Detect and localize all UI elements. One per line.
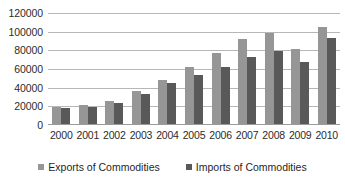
- bar-exports-2000[interactable]: [52, 107, 61, 125]
- x-axis-tick-label: 2000: [48, 128, 75, 146]
- axis-baseline: [48, 124, 340, 125]
- y-axis-tick-label: 120000: [9, 8, 43, 18]
- bar-group: [313, 13, 340, 125]
- y-axis-tick-label: 80000: [14, 45, 43, 55]
- bar-group: [101, 13, 128, 125]
- bar-group: [48, 13, 75, 125]
- bar-imports-2005[interactable]: [194, 75, 203, 125]
- plot-area: [48, 13, 340, 125]
- legend-label: Exports of Commodities: [48, 162, 159, 173]
- bar-exports-2002[interactable]: [105, 101, 114, 125]
- bar-group: [234, 13, 261, 125]
- x-axis-tick-label: 2010: [313, 128, 340, 146]
- bar-groups: [48, 13, 340, 125]
- bar-imports-2004[interactable]: [167, 83, 176, 125]
- bar-imports-2001[interactable]: [88, 107, 97, 125]
- legend-swatch-icon: [186, 164, 192, 170]
- bar-group: [181, 13, 208, 125]
- bar-exports-2010[interactable]: [318, 27, 327, 125]
- chart-legend: Exports of CommoditiesImports of Commodi…: [0, 157, 345, 177]
- x-axis-tick-label: 2009: [287, 128, 314, 146]
- bar-exports-2007[interactable]: [238, 39, 247, 125]
- y-axis: 120000100000800006000040000200000: [0, 0, 46, 132]
- bar-imports-2002[interactable]: [114, 103, 123, 125]
- bar-group: [207, 13, 234, 125]
- legend-item-imports[interactable]: Imports of Commodities: [186, 162, 307, 173]
- bar-imports-2010[interactable]: [327, 38, 336, 125]
- y-axis-tick-label: 40000: [14, 83, 43, 93]
- legend-label: Imports of Commodities: [196, 162, 307, 173]
- bar-imports-2009[interactable]: [300, 62, 309, 125]
- bar-exports-2004[interactable]: [158, 80, 167, 125]
- bar-imports-2003[interactable]: [141, 94, 150, 125]
- x-axis-tick-label: 2004: [154, 128, 181, 146]
- bar-imports-2000[interactable]: [61, 108, 70, 125]
- y-axis-tick-label: 100000: [9, 27, 43, 37]
- x-axis-tick-label: 2005: [181, 128, 208, 146]
- bar-chart: 120000100000800006000040000200000 200020…: [0, 0, 345, 186]
- legend-swatch-icon: [38, 164, 44, 170]
- y-axis-tick-label: 60000: [14, 64, 43, 74]
- bar-exports-2008[interactable]: [265, 33, 274, 125]
- bar-group: [154, 13, 181, 125]
- x-axis: 2000200120022003200420052006200720082009…: [48, 128, 340, 146]
- bar-group: [128, 13, 155, 125]
- x-axis-tick-label: 2002: [101, 128, 128, 146]
- bar-exports-2009[interactable]: [291, 49, 300, 125]
- bar-exports-2003[interactable]: [132, 91, 141, 125]
- x-axis-tick-label: 2008: [260, 128, 287, 146]
- bar-exports-2005[interactable]: [185, 67, 194, 125]
- bar-imports-2006[interactable]: [221, 67, 230, 125]
- bar-exports-2006[interactable]: [212, 53, 221, 125]
- bar-imports-2008[interactable]: [274, 51, 283, 125]
- legend-item-exports[interactable]: Exports of Commodities: [38, 162, 159, 173]
- x-axis-tick-label: 2001: [75, 128, 102, 146]
- bar-group: [260, 13, 287, 125]
- x-axis-tick-label: 2007: [234, 128, 261, 146]
- bar-imports-2007[interactable]: [247, 57, 256, 125]
- y-axis-tick-label: 0: [37, 120, 43, 130]
- bar-group: [75, 13, 102, 125]
- x-axis-tick-label: 2006: [207, 128, 234, 146]
- y-axis-tick-label: 20000: [14, 101, 43, 111]
- x-axis-tick-label: 2003: [128, 128, 155, 146]
- bar-group: [287, 13, 314, 125]
- bar-exports-2001[interactable]: [79, 105, 88, 125]
